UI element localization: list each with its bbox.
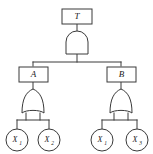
intermediate-left-label: A bbox=[30, 69, 37, 79]
basic-event-subscript: 1 bbox=[19, 140, 22, 146]
basic-event-subscript: 1 bbox=[104, 140, 107, 146]
or-gate-icon bbox=[22, 89, 44, 113]
basic-event-subscript: 2 bbox=[51, 140, 54, 146]
fault-tree-diagram: T A B X 1 X 2 X 1 X 3 bbox=[0, 0, 153, 154]
fault-tree-canvas: T A B X 1 X 2 X 1 X 3 bbox=[0, 0, 153, 154]
intermediate-right-label: B bbox=[119, 69, 125, 79]
and-gate-icon bbox=[66, 31, 88, 54]
or-gate-icon bbox=[110, 89, 132, 113]
basic-event-subscript: 3 bbox=[138, 140, 142, 146]
